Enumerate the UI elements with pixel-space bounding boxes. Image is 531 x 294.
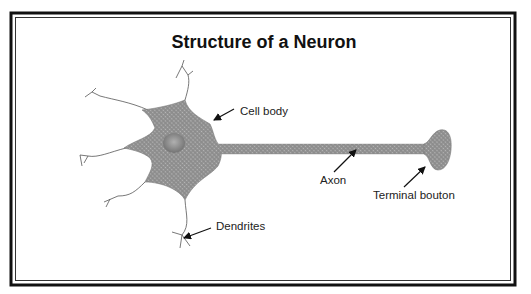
label-cell-body: Cell body [240,105,288,117]
terminal-bouton [424,130,451,170]
diagram-title: Structure of a Neuron [171,32,356,52]
label-axon: Axon [320,174,346,186]
label-terminal-bouton: Terminal bouton [373,189,455,201]
pointer-arrows [184,109,425,238]
dendrite-top [176,60,193,100]
cell-body-arrow [214,109,234,120]
dendrite-upper-left [85,88,148,110]
terminal-bouton-arrow [404,167,425,187]
dendrite-bottom [172,200,190,248]
axon [218,144,426,154]
nucleus [163,133,185,153]
label-dendrites: Dendrites [216,220,265,232]
dendrite-lower-left [104,182,145,207]
neuron-diagram: Structure of a Neuron Cell body Axon Ter… [0,0,531,294]
dendrite-left [80,148,126,166]
dendrites-arrow [184,228,211,238]
